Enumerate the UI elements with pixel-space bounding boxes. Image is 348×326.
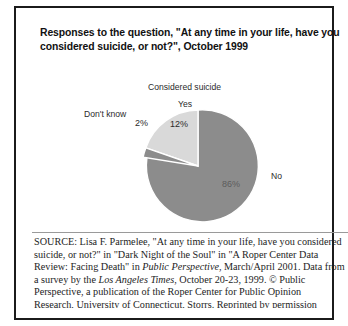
source-note: SOURCE: Lisa F. Parmelee, "At any time i… xyxy=(34,236,346,308)
slice-value-no: 86% xyxy=(222,179,240,189)
source-italic-newspaper: Los Angeles Times xyxy=(99,274,175,285)
source-italic-publication: Public Perspective xyxy=(142,261,219,272)
source-divider xyxy=(32,232,348,233)
dont-know-leader-line xyxy=(136,132,146,144)
page-title: Responses to the question, "At any time … xyxy=(40,26,340,53)
pie-chart: Considered suicide Yes Don't know No 2% … xyxy=(32,70,348,230)
slice-value-dont-know: 2% xyxy=(135,118,148,128)
slice-value-yes: 12% xyxy=(170,119,188,129)
pie-chart-svg xyxy=(32,70,348,230)
figure-frame: Responses to the question, "At any time … xyxy=(14,6,334,320)
slice-label-yes: Yes xyxy=(178,99,192,109)
chart-group-label: Considered suicide xyxy=(148,82,221,92)
source-text-4: Research, University of Connecticut, Sto… xyxy=(34,299,346,308)
slice-label-dont-know: Don't know xyxy=(84,109,126,119)
slice-label-no: No xyxy=(271,171,282,181)
source-prefix: SOURCE: xyxy=(34,236,77,247)
